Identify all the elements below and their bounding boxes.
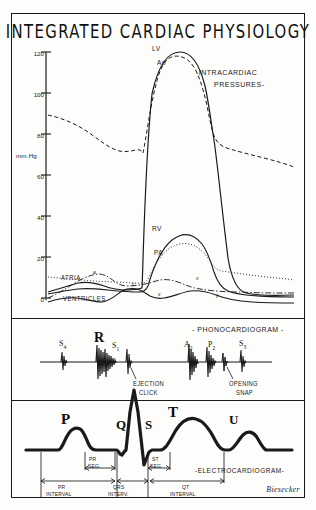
ecg-trace — [0, 0, 316, 510]
bracket-pr-segment — [85, 452, 115, 471]
ecg-waveform — [26, 390, 292, 465]
bracket-st-segment — [148, 452, 170, 471]
bracket-pr-interval — [41, 452, 115, 497]
figure-sheet: INTEGRATED CARDIAC PHYSIOLOGY 120 100 80… — [0, 0, 316, 510]
